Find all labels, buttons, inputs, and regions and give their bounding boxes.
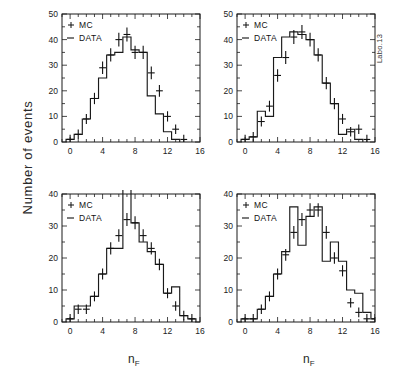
legend-mc-label: MC [254, 20, 268, 30]
mc-point [83, 114, 90, 124]
mc-point [156, 259, 163, 270]
x-axis-label-left-text: n [128, 352, 135, 366]
y-tick-label: 40 [224, 189, 234, 199]
y-tick-label: 10 [49, 285, 59, 295]
x-axis-label-right: nF [303, 352, 315, 368]
plot-area: 0481216010203040MCDATA [215, 188, 381, 344]
figure-root: Number of events Labo.13 048121601020304… [0, 0, 396, 379]
legend-data-label: DATA [79, 213, 102, 223]
x-tick-label: 4 [100, 146, 105, 156]
data-histogram [66, 37, 180, 142]
mc-point [91, 291, 98, 301]
mc-point [339, 265, 346, 276]
y-tick-label: 0 [228, 317, 233, 327]
y-tick-label: 20 [224, 86, 234, 96]
y-tick-label: 10 [49, 111, 59, 121]
legend-mc-label: MC [254, 200, 268, 210]
x-tick-label: 12 [338, 146, 348, 156]
x-tick-label: 16 [195, 146, 205, 156]
mc-point [140, 229, 147, 242]
x-tick-label: 16 [370, 146, 380, 156]
mc-point [140, 46, 147, 59]
panel-bottom-right: 0481216010203040MCDATA [215, 188, 381, 344]
mc-point [307, 33, 314, 47]
mc-point [180, 311, 187, 321]
series-group [66, 28, 187, 145]
x-tick-label: 8 [133, 146, 138, 156]
x-tick-label: 4 [275, 326, 280, 336]
mc-point [148, 242, 155, 254]
x-tick-label: 4 [100, 326, 105, 336]
y-tick-label: 10 [224, 285, 234, 295]
legend: MCDATA [67, 200, 102, 223]
x-tick-label: 8 [308, 326, 313, 336]
legend: MCDATA [67, 20, 102, 43]
mc-point [148, 67, 155, 80]
x-tick-label: 12 [163, 326, 173, 336]
x-tick-label: 12 [338, 326, 348, 336]
plot-area: 0481216010203040MCDATA [40, 188, 206, 344]
mc-point [99, 268, 106, 279]
y-tick-label: 0 [228, 137, 233, 147]
x-tick-label: 8 [133, 326, 138, 336]
y-tick-label: 30 [49, 221, 59, 231]
mc-point [347, 298, 354, 308]
mc-point [315, 48, 322, 61]
y-tick-label: 50 [49, 9, 59, 19]
x-axis-label-right-sub: F [310, 359, 315, 368]
x-axis-label-left: nF [128, 352, 140, 368]
y-tick-label: 50 [224, 9, 234, 19]
mc-point [67, 135, 74, 145]
mc-point [156, 85, 163, 97]
mc-point [242, 135, 249, 145]
x-tick-label: 0 [68, 146, 73, 156]
y-tick-label: 0 [53, 317, 58, 327]
x-tick-label: 0 [243, 146, 248, 156]
y-tick-label: 10 [224, 111, 234, 121]
y-tick-label: 40 [49, 189, 59, 199]
x-tick-label: 12 [163, 146, 173, 156]
mc-point [290, 226, 297, 239]
mc-point [299, 25, 306, 39]
mc-point [99, 61, 106, 74]
mc-point [266, 291, 273, 301]
mc-point [274, 268, 281, 279]
y-tick-label: 20 [49, 253, 59, 263]
legend-mc-label: MC [79, 20, 93, 30]
legend-data-label: DATA [254, 213, 277, 223]
mc-point [172, 301, 179, 311]
mc-point [323, 77, 330, 89]
mc-point [75, 130, 82, 140]
plot-area: 048121601020304050MCDATA [215, 8, 381, 164]
mc-point [172, 124, 179, 134]
panel-top-left: 048121601020304050MCDATA [40, 8, 206, 164]
x-axis-label-left-sub: F [135, 359, 140, 368]
mc-point [274, 69, 281, 81]
mc-point [363, 135, 370, 145]
mc-point [107, 48, 114, 61]
mc-point [331, 98, 338, 109]
mc-point [164, 111, 171, 121]
mc-point [115, 33, 122, 47]
mc-point [258, 304, 265, 314]
y-tick-label: 30 [224, 60, 234, 70]
mc-point [282, 51, 289, 64]
mc-point [266, 101, 273, 112]
x-tick-label: 16 [195, 326, 205, 336]
mc-point [107, 242, 114, 254]
y-tick-label: 0 [53, 137, 58, 147]
mc-point [180, 135, 187, 145]
y-tick-label: 30 [49, 60, 59, 70]
legend-data-label: DATA [254, 33, 277, 43]
mc-point [132, 216, 139, 229]
x-tick-label: 0 [243, 326, 248, 336]
x-tick-label: 16 [370, 326, 380, 336]
data-histogram [241, 32, 363, 142]
mc-point [124, 213, 131, 226]
mc-point [307, 203, 314, 216]
y-tick-label: 40 [49, 35, 59, 45]
mc-point [299, 213, 306, 226]
x-axis-label-right-text: n [303, 352, 310, 366]
mc-point [331, 252, 338, 264]
legend-data-label: DATA [79, 33, 102, 43]
